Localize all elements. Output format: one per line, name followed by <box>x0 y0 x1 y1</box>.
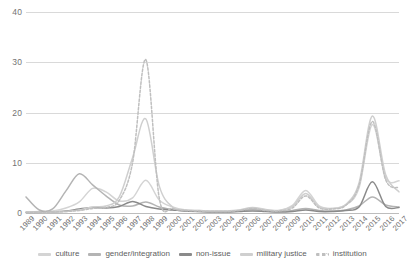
legend-item-institution[interactable]: institution <box>316 250 367 258</box>
legend-item-gender-integration[interactable]: gender/integration <box>88 250 170 258</box>
legend-label: culture <box>55 250 79 258</box>
legend-swatch-icon <box>38 253 51 256</box>
legend-swatch-icon <box>316 253 329 256</box>
chart-legend: culturegender/integrationnon-issuemilita… <box>0 250 405 258</box>
x-axis-ticks: 1989199019911992199319941995199619971998… <box>26 214 399 250</box>
legend-swatch-icon <box>88 253 101 256</box>
legend-item-culture[interactable]: culture <box>38 250 79 258</box>
series-line-institution <box>26 59 399 212</box>
y-tick-label-30: 30 <box>0 58 22 67</box>
legend-label: institution <box>333 250 367 258</box>
y-tick-label-10: 10 <box>0 159 22 168</box>
series-line-culture <box>26 125 399 212</box>
legend-swatch-icon <box>179 253 192 256</box>
legend-label: gender/integration <box>105 250 170 258</box>
series-lines <box>26 12 399 213</box>
legend-swatch-icon <box>240 253 253 256</box>
legend-item-non-issue[interactable]: non-issue <box>179 250 231 258</box>
y-tick-label-20: 20 <box>0 109 22 118</box>
legend-label: non-issue <box>196 250 231 258</box>
y-tick-label-40: 40 <box>0 8 22 17</box>
legend-label: military justice <box>257 250 307 258</box>
y-tick-label-0: 0 <box>0 209 22 218</box>
plot-area <box>26 12 399 213</box>
series-line-military-justice <box>26 116 399 213</box>
legend-item-military-justice[interactable]: military justice <box>240 250 307 258</box>
